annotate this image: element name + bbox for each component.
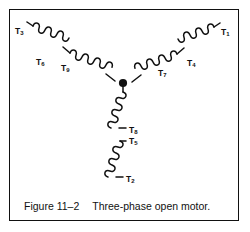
motor-schematic-diagram: T3 T6 T9 T1 T4 T7 T8 T5 T2 [10, 10, 240, 190]
lead-label-t3-sub: 3 [20, 30, 23, 36]
coil-t7-neutral [135, 51, 177, 69]
coil-t5-t2 [105, 141, 123, 177]
lead-wire-t1 [214, 23, 220, 27]
lead-label-t5: T5 [129, 137, 138, 146]
figure-caption: Figure 11–2 Three-phase open motor. [10, 191, 240, 221]
coil-neutral-t8 [108, 92, 126, 128]
lead-label-t7-sub: 7 [163, 72, 166, 78]
coil-t1-t4 [178, 24, 214, 42]
lead-wire-t4-t7 [177, 48, 184, 54]
lead-wire-left-to-neutral [106, 74, 115, 81]
lead-label-t9: T9 [61, 64, 70, 73]
lead-label-t8: T8 [129, 126, 138, 135]
figure-frame: T3 T6 T9 T1 T4 T7 T8 T5 T2 Figure 11–2 T… [9, 9, 239, 221]
lead-label-t4-sub: 4 [192, 62, 195, 68]
lead-label-t9-sub: 9 [66, 67, 69, 73]
lead-label-t7: T7 [158, 69, 167, 78]
lead-label-t8-sub: 8 [134, 129, 137, 135]
lead-label-t1: T1 [221, 28, 230, 37]
neutral-junction-dot [119, 79, 127, 87]
lead-label-t2-sub: 2 [131, 178, 134, 184]
lead-label-t4: T4 [187, 59, 196, 68]
lead-label-t3: T3 [15, 27, 24, 36]
figure-caption-text: Three-phase open motor. [92, 200, 210, 212]
lead-label-t6-sub: 6 [41, 61, 44, 67]
coil-t9-neutral [70, 50, 112, 68]
figure-caption-number: Figure 11–2 [24, 200, 79, 212]
lead-wire-t6-t9 [63, 47, 70, 53]
lead-label-t6: T6 [36, 58, 45, 67]
lead-label-t1-sub: 1 [226, 31, 229, 37]
lead-label-t2: T2 [126, 175, 135, 184]
lead-wire-t3 [27, 22, 33, 26]
coil-t3-t6 [33, 23, 69, 41]
lead-wire-right-to-neutral [132, 75, 141, 82]
lead-label-t5-sub: 5 [134, 140, 137, 146]
wye-winding-svg [10, 10, 240, 190]
